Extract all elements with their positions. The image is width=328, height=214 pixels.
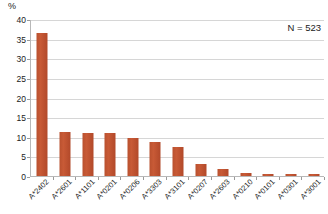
bar[interactable] — [59, 132, 70, 176]
bar[interactable] — [127, 138, 138, 176]
x-axis-tick-label: A*0206 — [118, 178, 141, 201]
x-axis-tick-label: A*2601 — [50, 178, 73, 201]
bar[interactable] — [218, 169, 229, 176]
x-axis-tick-label: A*0210 — [231, 178, 254, 201]
x-axis-tick-label: A*1101 — [73, 178, 96, 201]
bar[interactable] — [105, 133, 116, 176]
bar-slot — [302, 20, 325, 176]
bar-slot — [235, 20, 258, 176]
plot-area — [30, 20, 324, 177]
x-axis-tick-label: A*0201 — [96, 178, 119, 201]
y-axis-tick-label: 30 — [0, 55, 26, 64]
bar-slot — [54, 20, 77, 176]
bar[interactable] — [150, 142, 161, 176]
bar[interactable] — [82, 133, 93, 176]
y-axis-tick-label: 40 — [0, 16, 26, 25]
bar[interactable] — [286, 174, 297, 176]
x-axis-tick-label: A*3001 — [299, 178, 322, 201]
bar-slot — [121, 20, 144, 176]
x-axis-tick-label: A*2402 — [28, 178, 51, 201]
y-axis-tick-label: 5 — [0, 153, 26, 162]
bar-slot — [167, 20, 190, 176]
x-axis-tick-labels: A*2402A*2601A*1101A*0201A*0206A*3303A*31… — [30, 178, 324, 214]
y-axis-tick-label: 15 — [0, 114, 26, 123]
bar-slot — [76, 20, 99, 176]
bar-slot — [212, 20, 235, 176]
x-axis-tick-label: A*0207 — [186, 178, 209, 201]
bar[interactable] — [240, 173, 251, 176]
bar-slot — [31, 20, 54, 176]
bar-slot — [99, 20, 122, 176]
bar-slot — [257, 20, 280, 176]
bar[interactable] — [263, 174, 274, 176]
bar[interactable] — [172, 147, 183, 176]
x-axis-tick-label: A*2603 — [209, 178, 232, 201]
bar[interactable] — [195, 164, 206, 176]
x-axis-tick-label: A*3303 — [141, 178, 164, 201]
y-axis-title: % — [8, 1, 16, 11]
bar-slot — [144, 20, 167, 176]
y-axis-tick-label: 0 — [0, 173, 26, 182]
y-axis-tick-label: 35 — [0, 35, 26, 44]
x-axis-tick-label: A*0301 — [276, 178, 299, 201]
sample-size-annotation: N = 523 — [287, 22, 321, 33]
y-axis-tick-label: 10 — [0, 133, 26, 142]
x-axis-tick-label: A*0101 — [254, 178, 277, 201]
bar-chart: % 0510152025303540 A*2402A*2601A*1101A*0… — [0, 0, 328, 214]
x-axis-tick-mark — [324, 177, 325, 180]
y-axis-tick-label: 20 — [0, 94, 26, 103]
bar-slot — [280, 20, 303, 176]
bar[interactable] — [308, 174, 319, 176]
y-axis-tick-label: 25 — [0, 74, 26, 83]
bars-layer — [31, 20, 324, 176]
bar[interactable] — [37, 33, 48, 176]
bar-slot — [189, 20, 212, 176]
x-axis-tick-label: A*3101 — [163, 178, 186, 201]
